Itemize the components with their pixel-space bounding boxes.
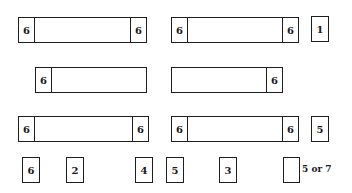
bar-row1-right: 6 6 xyxy=(171,17,299,43)
bar-row2-left: 6 xyxy=(35,67,147,93)
cell-label: 6 xyxy=(19,18,35,42)
bottom-box-2: 2 xyxy=(66,157,84,183)
cell-label: 6 xyxy=(282,18,298,42)
cell-label: 6 xyxy=(172,117,188,141)
cell-label: 6 xyxy=(266,68,282,92)
bottom-box-3: 4 xyxy=(135,157,153,183)
cell-label: 6 xyxy=(282,117,298,141)
cell-label: 6 xyxy=(19,117,35,141)
bar-row3-left: 6 6 xyxy=(18,116,149,142)
cell-label: 6 xyxy=(130,18,146,42)
cell-label: 6 xyxy=(132,117,148,141)
bottom-box-1: 6 xyxy=(22,157,40,183)
bottom-box-6 xyxy=(283,157,300,183)
cell-label: 6 xyxy=(36,68,52,92)
side-box-row1: 1 xyxy=(311,16,329,42)
bottom-note: 5 or 7 xyxy=(302,164,332,174)
bar-row1-left: 6 6 xyxy=(18,17,147,43)
side-box-row3: 5 xyxy=(311,116,329,142)
cell-label: 6 xyxy=(172,18,188,42)
bar-row3-right: 6 6 xyxy=(171,116,299,142)
bottom-box-4: 5 xyxy=(166,157,184,183)
bar-row2-right: 6 xyxy=(171,67,283,93)
bottom-box-5: 3 xyxy=(219,157,237,183)
